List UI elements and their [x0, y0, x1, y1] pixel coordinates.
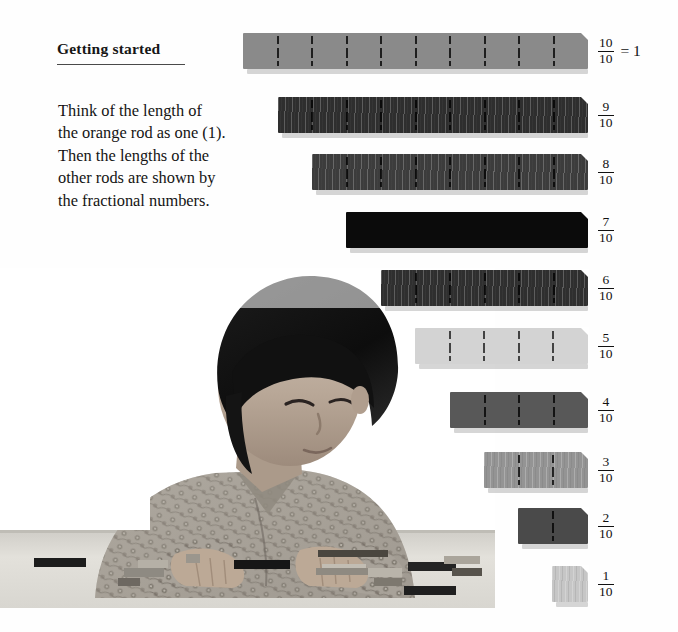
- rod-unit-divider: [518, 455, 520, 485]
- fraction-numerator: 5: [601, 331, 610, 345]
- fraction-denominator: 10: [598, 172, 614, 187]
- fraction-label-6-over-10: 610: [598, 273, 614, 303]
- fraction: 510: [598, 331, 614, 361]
- rod-row-9-10: [278, 97, 588, 133]
- rod-unit-divider: [483, 331, 485, 361]
- rod-unit-divider: [449, 100, 451, 130]
- rod-unit-divider: [380, 36, 382, 66]
- paragraph-line-1: Think of the length of: [58, 100, 273, 122]
- rod-wrapper: [484, 452, 588, 488]
- rod-unit-divider: [415, 157, 417, 187]
- rod-grain-texture: [278, 97, 588, 133]
- rod-wrapper: [312, 154, 588, 190]
- fraction: 1010: [598, 36, 614, 66]
- rod-unit-divider: [380, 100, 382, 130]
- rod-row-8-10: [312, 154, 588, 190]
- heading-underline: [57, 64, 185, 65]
- fraction-denominator: 10: [598, 470, 614, 485]
- rod-shadow: [522, 544, 588, 549]
- rod-wrapper: [518, 508, 588, 544]
- fraction-denominator: 10: [598, 51, 614, 66]
- rod-unit-divider: [415, 100, 417, 130]
- fraction: 410: [598, 395, 614, 425]
- rod-unit-divider: [484, 395, 486, 425]
- rod-unit-divider: [380, 157, 382, 187]
- rod-unit-divider: [552, 331, 554, 361]
- rod-bar[interactable]: [346, 212, 588, 248]
- rod-bar[interactable]: [450, 392, 588, 428]
- rod-unit-divider: [415, 36, 417, 66]
- fraction-denominator: 10: [598, 526, 614, 541]
- rod-wrapper: [243, 33, 588, 69]
- rod-grain-texture: [552, 566, 588, 602]
- rod-shadow: [488, 488, 588, 493]
- fraction-numerator: 8: [601, 157, 610, 171]
- rod-bar[interactable]: [484, 452, 588, 488]
- rod-row-10-10: [243, 33, 588, 69]
- fraction-denominator: 10: [598, 410, 614, 425]
- rod-wrapper: [552, 566, 588, 602]
- fraction-label-10-over-10: 1010= 1: [598, 36, 641, 66]
- rod-unit-divider: [518, 36, 520, 66]
- fraction-label-3-over-10: 310: [598, 455, 614, 485]
- rod-wrapper: [381, 270, 588, 306]
- fraction: 110: [598, 569, 614, 599]
- fraction-equals-value: = 1: [621, 43, 641, 59]
- rod-shadow: [350, 248, 588, 253]
- rod-wrapper: [278, 97, 588, 133]
- rod-unit-divider: [311, 100, 313, 130]
- fraction: 710: [598, 215, 614, 245]
- fraction-label-7-over-10: 710: [598, 215, 614, 245]
- fraction-numerator: 2: [601, 511, 610, 525]
- rod-bar[interactable]: [552, 566, 588, 602]
- fraction: 210: [598, 511, 614, 541]
- fraction: 910: [598, 100, 614, 130]
- rod-wrapper: [346, 212, 588, 248]
- rod-shadow: [419, 364, 588, 369]
- rod-bar[interactable]: [243, 33, 588, 69]
- fraction-label-8-over-10: 810: [598, 157, 614, 187]
- fraction: 610: [598, 273, 614, 303]
- fraction: 310: [598, 455, 614, 485]
- rod-unit-divider: [415, 273, 417, 303]
- fraction-denominator: 10: [598, 230, 614, 245]
- rod-bar[interactable]: [278, 97, 588, 133]
- rod-unit-divider: [449, 331, 451, 361]
- rod-row-5-10: [415, 328, 588, 364]
- rod-shadow: [282, 133, 588, 138]
- rod-unit-divider: [553, 157, 555, 187]
- fraction-numerator: 3: [601, 455, 610, 469]
- rod-bar[interactable]: [518, 508, 588, 544]
- rod-unit-divider: [484, 157, 486, 187]
- rod-grain-texture: [484, 452, 588, 488]
- rod-unit-divider: [553, 100, 555, 130]
- rod-unit-divider: [346, 100, 348, 130]
- paragraph-line-2: the orange rod as one (1).: [58, 122, 273, 144]
- rod-wrapper: [415, 328, 588, 364]
- rod-bar[interactable]: [312, 154, 588, 190]
- fraction-label-9-over-10: 910: [598, 100, 614, 130]
- rod-row-2-10: [518, 508, 588, 544]
- rod-bar[interactable]: [381, 270, 588, 306]
- rod-row-3-10: [484, 452, 588, 488]
- fraction-label-1-over-10: 110: [598, 569, 614, 599]
- rod-unit-divider: [484, 273, 486, 303]
- rod-unit-divider: [484, 100, 486, 130]
- rod-unit-divider: [484, 36, 486, 66]
- rod-shadow: [247, 69, 588, 74]
- rod-unit-divider: [449, 36, 451, 66]
- rod-row-4-10: [450, 392, 588, 428]
- fraction-denominator: 10: [598, 584, 614, 599]
- rod-unit-divider: [346, 36, 348, 66]
- rod-unit-divider: [346, 157, 348, 187]
- rod-row-7-10: [346, 212, 588, 248]
- rod-unit-divider: [518, 395, 520, 425]
- fraction-label-4-over-10: 410: [598, 395, 614, 425]
- rod-unit-divider: [553, 36, 555, 66]
- rod-bar[interactable]: [415, 328, 588, 364]
- rod-unit-divider: [518, 331, 520, 361]
- rod-unit-divider: [518, 273, 520, 303]
- page-title: Getting started: [57, 40, 257, 62]
- rod-shadow: [454, 428, 588, 433]
- fraction-numerator: 4: [601, 395, 610, 409]
